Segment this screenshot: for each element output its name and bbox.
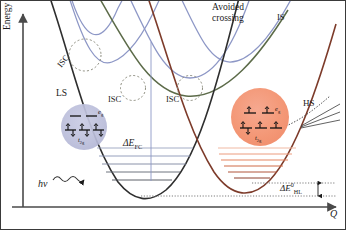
figure-border [0,0,346,230]
figure-root: Energy Q Avoided crossing LS IS HS ISC I… [0,0,346,230]
